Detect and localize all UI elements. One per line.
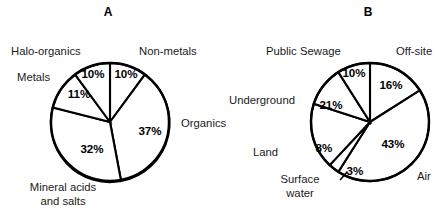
value-surface-water: 3%	[347, 164, 364, 177]
value-air: 43%	[381, 137, 404, 150]
value-mineral-acids: 32%	[80, 142, 103, 155]
label-surface-water: Surface water	[262, 172, 338, 200]
label-surface-water-line2: water	[262, 186, 338, 200]
label-non-metals: Non-metals	[139, 45, 197, 58]
value-non-metals: 10%	[114, 67, 137, 80]
label-mineral-acids-and-salts: Mineral acids and salts	[8, 180, 118, 208]
label-surface-water-line1: Surface	[262, 172, 338, 186]
label-metals: Metals	[17, 71, 50, 84]
value-off-site: 16%	[379, 78, 402, 91]
value-halo-organics: 10%	[81, 67, 104, 80]
value-public-sewage: 10%	[342, 66, 365, 79]
value-metals: 11%	[68, 87, 91, 100]
label-off-site: Off-site	[396, 45, 432, 58]
value-underground: 21%	[319, 98, 342, 111]
value-land: 8%	[316, 141, 333, 154]
label-organics: Organics	[181, 117, 226, 130]
label-public-sewage: Public Sewage	[266, 45, 341, 58]
value-organics: 37%	[138, 124, 161, 137]
label-air: Air	[417, 170, 431, 183]
label-mineral-acids-line1: Mineral acids	[8, 180, 118, 194]
label-land: Land	[253, 146, 278, 159]
label-halo-organics: Halo-organics	[11, 45, 81, 58]
label-underground: Underground	[229, 94, 295, 107]
pie-chart-figure: A B Halo-organics Non-metals Metals O	[0, 0, 448, 216]
label-mineral-acids-line2: and salts	[8, 194, 118, 208]
